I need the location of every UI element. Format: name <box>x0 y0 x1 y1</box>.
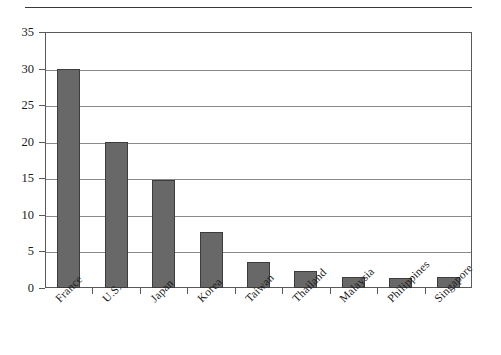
x-tick-mark-5 <box>282 288 283 294</box>
x-tick-mark-3 <box>187 288 188 294</box>
y-tick-label-15: 15 <box>8 172 34 185</box>
x-tick-mark-6 <box>330 288 331 294</box>
bar-chart-figure: 05101520253035 FranceU.S.JapanKoreaTaiwa… <box>0 0 501 355</box>
x-tick-mark-7 <box>377 288 378 294</box>
y-tick-label-5: 5 <box>8 245 34 258</box>
y-tick-label-20: 20 <box>8 136 34 149</box>
top-horizontal-rule <box>25 7 472 8</box>
x-tick-mark-2 <box>140 288 141 294</box>
y-tick-label-35: 35 <box>8 26 34 39</box>
y-tick-mark-0 <box>39 288 45 289</box>
x-tick-mark-1 <box>92 288 93 294</box>
y-tick-label-30: 30 <box>8 63 34 76</box>
bar-u-s <box>105 142 128 288</box>
x-tick-mark-8 <box>425 288 426 294</box>
bar-japan <box>152 180 175 288</box>
bars-layer <box>45 32 472 288</box>
y-tick-label-25: 25 <box>8 99 34 112</box>
y-tick-label-0: 0 <box>8 282 34 295</box>
bar-france <box>57 69 80 288</box>
x-tick-mark-4 <box>235 288 236 294</box>
y-tick-label-10: 10 <box>8 209 34 222</box>
